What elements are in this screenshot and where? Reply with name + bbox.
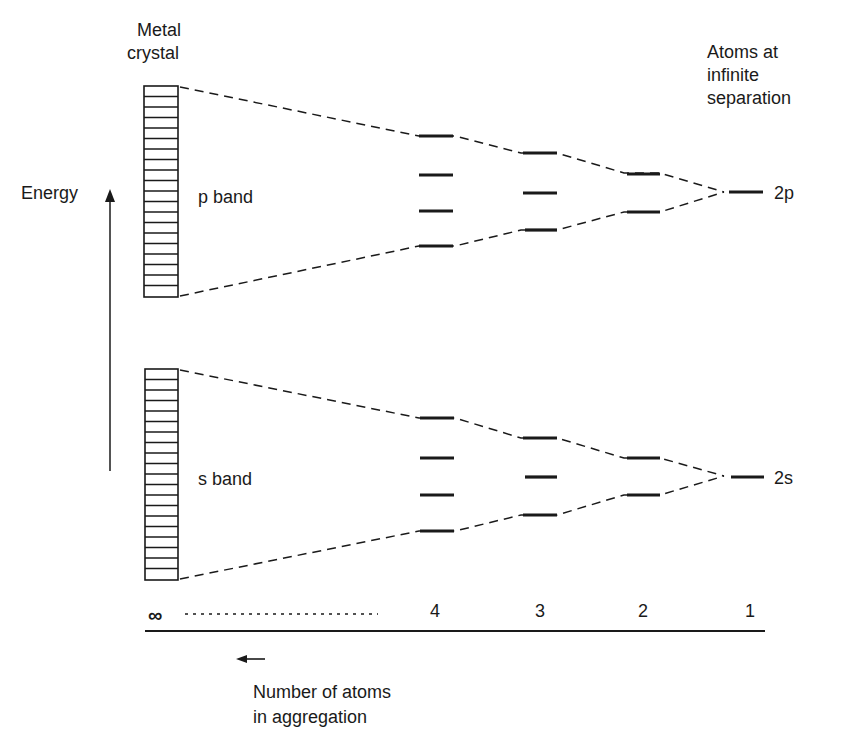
band-formation-diagram	[0, 0, 843, 747]
p-band-envelope	[180, 87, 724, 296]
left-arrow-icon	[236, 655, 265, 663]
p-energy-levels	[419, 136, 763, 246]
energy-arrow-icon	[105, 189, 115, 471]
p-band-ladder	[144, 86, 178, 297]
s-band-ladder	[145, 369, 178, 580]
s-band-envelope	[180, 370, 724, 579]
s-energy-levels	[420, 418, 764, 531]
